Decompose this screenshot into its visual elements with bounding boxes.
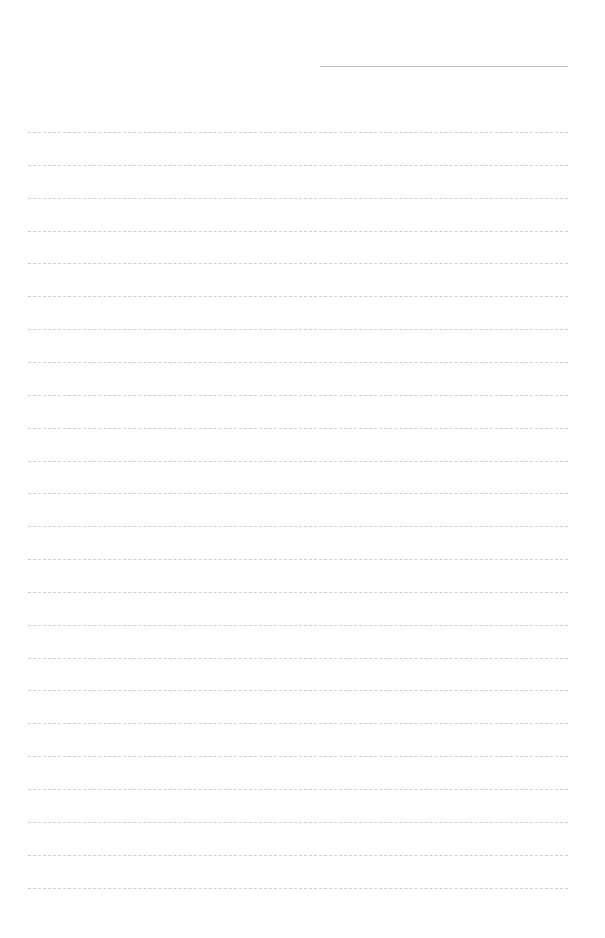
ruled-line — [28, 658, 568, 659]
ruled-line — [28, 329, 568, 330]
ruled-line — [28, 625, 568, 626]
ruled-line — [28, 198, 568, 199]
ruled-line — [28, 428, 568, 429]
ruled-line — [28, 231, 568, 232]
header-write-line — [320, 66, 568, 67]
ruled-line — [28, 526, 568, 527]
ruled-line — [28, 493, 568, 494]
ruled-line — [28, 756, 568, 757]
ruled-line — [28, 263, 568, 264]
ruled-line — [28, 723, 568, 724]
ruled-line — [28, 296, 568, 297]
ruled-line — [28, 132, 568, 133]
ruled-line — [28, 888, 568, 889]
ruled-line — [28, 461, 568, 462]
ruled-line — [28, 690, 568, 691]
ruled-line — [28, 592, 568, 593]
ruled-line — [28, 855, 568, 856]
ruled-line — [28, 822, 568, 823]
ruled-line — [28, 789, 568, 790]
ruled-line — [28, 559, 568, 560]
ruled-line — [28, 165, 568, 166]
ruled-line — [28, 395, 568, 396]
ruled-line — [28, 362, 568, 363]
